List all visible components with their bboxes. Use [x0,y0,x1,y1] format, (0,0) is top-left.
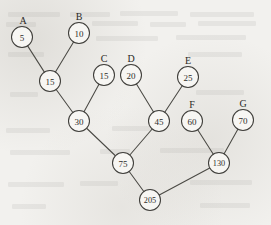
tree-edge [28,46,45,72]
tree-internal-node[interactable]: 205 [140,190,161,211]
leaf-labels-group: ABCDEFG [19,11,246,110]
tree-internal-node[interactable]: 75 [113,153,134,174]
leaf-label-a: A [19,15,27,26]
leaf-label-f: F [189,99,195,110]
leaf-label-c: C [101,53,108,64]
leaf-label-g: G [239,98,246,109]
tree-leaf-node[interactable]: 20 [121,65,142,86]
nodes-group: 510152025607015304575130205 [12,23,254,211]
leaf-label-b: B [76,11,83,22]
tree-leaf-node[interactable]: 60 [182,111,203,132]
node-value-text: 15 [100,71,110,81]
tree-leaf-node[interactable]: 25 [178,67,199,88]
tree-internal-node[interactable]: 45 [149,111,170,132]
tree-edge [84,84,99,112]
tree-edge [56,90,73,113]
tree-edge [130,129,152,155]
tree-leaf-node[interactable]: 5 [12,27,33,48]
tree-edge [224,129,238,154]
tree-leaf-node[interactable]: 10 [69,23,90,44]
node-value-text: 205 [144,196,156,205]
tree-edge [165,86,182,112]
tree-internal-node[interactable]: 15 [40,71,61,92]
node-value-text: 20 [127,71,137,81]
node-value-text: 130 [213,159,225,168]
tree-internal-node[interactable]: 130 [209,153,230,174]
tree-edge [55,42,73,72]
tree-internal-node[interactable]: 30 [69,111,90,132]
node-value-text: 75 [119,159,129,169]
node-value-text: 5 [20,33,25,43]
tree-canvas: 510152025607015304575130205 ABCDEFG [0,0,271,225]
node-value-text: 10 [75,29,85,39]
leaf-label-e: E [185,55,191,66]
huffman-tree-figure: 510152025607015304575130205 ABCDEFG [0,0,271,225]
tree-edge [87,128,116,156]
tree-edge [136,84,153,112]
tree-leaf-node[interactable]: 70 [233,110,254,131]
node-value-text: 30 [75,117,85,127]
node-value-text: 45 [155,117,165,127]
node-value-text: 60 [188,117,198,127]
node-value-text: 70 [239,116,249,126]
tree-edge [129,171,144,191]
tree-leaf-node[interactable]: 15 [94,65,115,86]
node-value-text: 15 [46,77,56,87]
tree-edge [159,168,210,195]
leaf-label-d: D [127,53,134,64]
tree-edge [198,130,214,154]
node-value-text: 25 [184,73,194,83]
